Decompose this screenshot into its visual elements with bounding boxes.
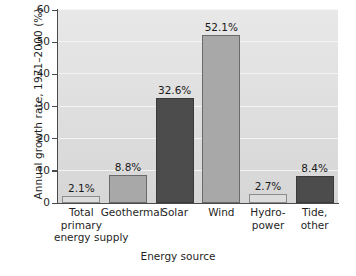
y-tick-label: 60 — [24, 3, 50, 15]
y-tick — [52, 74, 57, 75]
y-tick-label: 0 — [24, 196, 50, 208]
category-label-line: other — [287, 219, 342, 232]
y-tick — [52, 203, 57, 204]
bar — [109, 175, 147, 203]
y-tick-label: 20 — [24, 132, 50, 144]
y-tick-label: 10 — [24, 164, 50, 176]
y-tick — [52, 138, 57, 139]
category-label-line: energy supply — [54, 231, 109, 244]
y-tick-label: 50 — [24, 35, 50, 47]
y-tick — [52, 170, 57, 171]
x-axis-title: Energy source — [0, 250, 356, 262]
gridline — [58, 9, 338, 10]
gridline — [58, 41, 338, 42]
bar-value-label: 8.8% — [98, 161, 158, 173]
bar — [296, 176, 334, 203]
y-tick — [52, 106, 57, 107]
bar-value-label: 2.1% — [51, 182, 111, 194]
x-axis-line — [57, 203, 339, 204]
gridline — [58, 106, 338, 107]
bar-chart-figure: Annual growth rate, 1971–2000 (%) 010203… — [0, 0, 356, 276]
bar-value-label: 32.6% — [145, 84, 205, 96]
y-tick — [52, 42, 57, 43]
gridline — [58, 73, 338, 74]
bar — [249, 194, 287, 203]
bar — [156, 98, 194, 203]
bar — [62, 196, 100, 203]
category-label-line: Tide, — [287, 206, 342, 219]
category-label: Tide,other — [287, 206, 342, 231]
y-tick — [52, 10, 57, 11]
plot-area — [58, 10, 338, 203]
bar — [202, 35, 240, 203]
y-tick-label: 40 — [24, 67, 50, 79]
category-label-line: primary — [54, 219, 109, 232]
bar-value-label: 8.4% — [285, 162, 345, 174]
bar-value-label: 52.1% — [191, 21, 251, 33]
bar-value-label: 2.7% — [238, 180, 298, 192]
y-tick-label: 30 — [24, 100, 50, 112]
gridline — [58, 138, 338, 139]
